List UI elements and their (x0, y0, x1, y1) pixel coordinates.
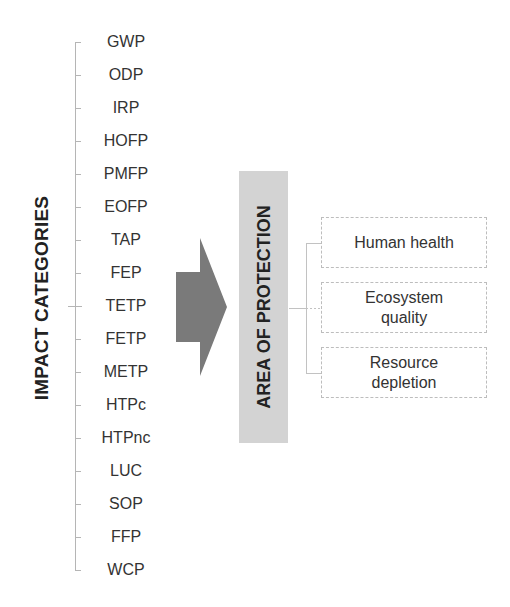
area-of-protection-bar: AREA OF PROTECTION (239, 171, 288, 443)
aop-box-human-health: Human health (321, 217, 487, 268)
connector-human-health (306, 243, 321, 244)
bracket-tick (75, 372, 81, 373)
area-of-protection-heading: AREA OF PROTECTION (253, 205, 274, 408)
impact-category-item: LUC (86, 461, 166, 481)
impact-category-item: HOFP (86, 131, 166, 151)
impact-category-item: IRP (86, 98, 166, 118)
bracket-tick (75, 405, 81, 406)
bracket-tick (75, 438, 81, 439)
aop-box-resource-depletion: Resource depletion (321, 347, 487, 398)
impact-categories-heading: IMPACT CATEGORIES (31, 196, 53, 400)
bracket-tick (75, 42, 81, 43)
aop-label-ecosystem-quality: Ecosystem quality (354, 288, 454, 328)
bracket-tick (75, 174, 81, 175)
bracket-tick (75, 240, 81, 241)
bracket-tick (75, 570, 81, 571)
impact-category-item: PMFP (86, 164, 166, 184)
bracket-tick (75, 339, 81, 340)
arrow-right-icon (176, 238, 228, 376)
bracket-tick (75, 141, 81, 142)
impact-category-item: EOFP (86, 197, 166, 217)
impact-category-item: TETP (86, 296, 166, 316)
impact-category-item: FEP (86, 263, 166, 283)
impact-category-item: ODP (86, 65, 166, 85)
impact-category-item: METP (86, 362, 166, 382)
impact-category-item: TAP (86, 230, 166, 250)
bracket-tick (75, 75, 81, 76)
bracket-tick (75, 108, 81, 109)
aop-label-human-health: Human health (354, 233, 454, 253)
bracket-tick (75, 504, 81, 505)
impact-category-item: HTPc (86, 395, 166, 415)
impact-category-item: SOP (86, 494, 166, 514)
bracket-tick (75, 207, 81, 208)
bracket-tick (75, 537, 81, 538)
aop-box-ecosystem-quality: Ecosystem quality (321, 282, 487, 333)
impact-category-item: FFP (86, 527, 166, 547)
impact-category-item: WCP (86, 560, 166, 580)
connector-ecosystem-quality (306, 308, 321, 309)
impact-category-item: GWP (86, 32, 166, 52)
aop-label-resource-depletion: Resource depletion (354, 353, 454, 393)
connector-main (289, 308, 306, 309)
impact-category-item: FETP (86, 329, 166, 349)
bracket-tick (75, 273, 81, 274)
connector-resource-depletion (306, 373, 321, 374)
bracket-tick (68, 306, 82, 307)
bracket-tick (75, 471, 81, 472)
impact-category-item: HTPnc (86, 428, 166, 448)
